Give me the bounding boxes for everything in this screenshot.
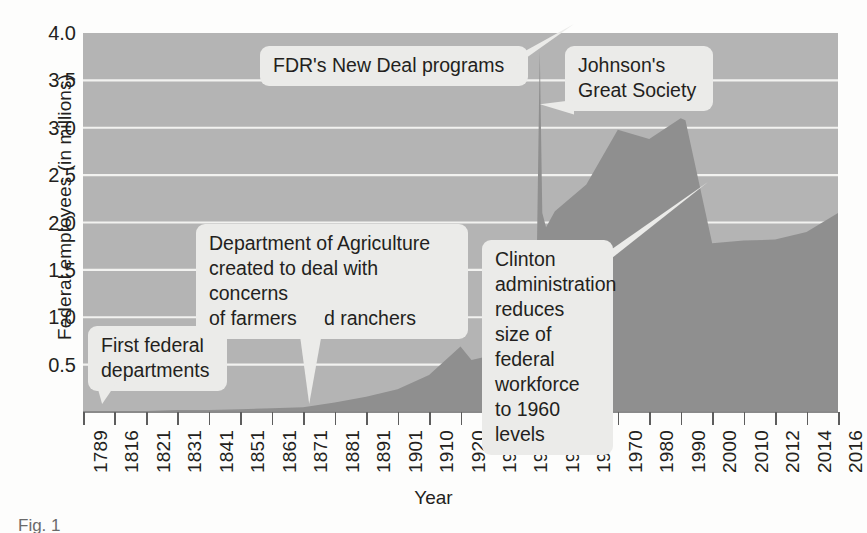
x-axis-tick-label: 1980 bbox=[656, 430, 678, 473]
x-axis-tick-label: 2014 bbox=[814, 430, 836, 473]
x-axis-tick-mark bbox=[83, 412, 85, 425]
x-axis-tick-label: 2010 bbox=[751, 430, 773, 473]
y-axis-tick-label: 4.0 bbox=[30, 22, 76, 45]
x-axis-tick-mark bbox=[114, 412, 116, 425]
y-axis-tick-label: 2.0 bbox=[30, 211, 76, 234]
callout-johnsons-great-society: Johnson's Great Society bbox=[565, 46, 713, 111]
x-axis-tick-mark bbox=[209, 412, 211, 425]
figure-caption: Fig. 1 bbox=[18, 516, 61, 533]
x-axis-tick-mark bbox=[649, 412, 651, 425]
x-axis-tick-mark bbox=[335, 412, 337, 425]
x-axis-tick-label: 1881 bbox=[342, 430, 364, 473]
x-axis-tick-mark bbox=[838, 412, 840, 425]
x-axis-tick-mark bbox=[366, 412, 368, 425]
y-axis-tick-label: 3.5 bbox=[30, 69, 76, 92]
x-axis-tick-label: 1871 bbox=[310, 430, 332, 473]
x-axis-tick-mark bbox=[712, 412, 714, 425]
x-axis-tick-mark bbox=[461, 412, 463, 425]
x-axis-tick-label: 1789 bbox=[90, 430, 112, 473]
x-axis-tick-mark bbox=[303, 412, 305, 425]
x-axis-tick-label: 1910 bbox=[436, 430, 458, 473]
x-axis-tick-label: 1901 bbox=[405, 430, 427, 473]
x-axis-tick-label: 1841 bbox=[216, 430, 238, 473]
x-axis-tick-label: 2000 bbox=[719, 430, 741, 473]
x-axis-title: Year bbox=[0, 487, 867, 509]
x-axis-tick-label: 1990 bbox=[688, 430, 710, 473]
x-axis-tick-label: 2016 bbox=[845, 430, 867, 473]
x-axis-tick-label: 1861 bbox=[279, 430, 301, 473]
y-axis-tick-label: 3.0 bbox=[30, 116, 76, 139]
x-axis-tick-label: 2012 bbox=[782, 430, 804, 473]
x-axis-tick-mark bbox=[807, 412, 809, 425]
x-axis-tick-mark bbox=[272, 412, 274, 425]
y-axis-tick-label: 2.5 bbox=[30, 164, 76, 187]
x-axis-tick-mark bbox=[618, 412, 620, 425]
x-axis-tick-mark bbox=[681, 412, 683, 425]
x-axis-tick-mark bbox=[744, 412, 746, 425]
x-axis-tick-mark bbox=[775, 412, 777, 425]
x-axis-tick-mark bbox=[146, 412, 148, 425]
y-axis-tick-label: 0.5 bbox=[30, 353, 76, 376]
x-axis-tick-label: 1891 bbox=[373, 430, 395, 473]
callout-fdrs-new-deal: FDR's New Deal programs bbox=[260, 46, 528, 86]
x-axis-tick-mark bbox=[429, 412, 431, 425]
y-axis-tick-labels: 0.51.01.52.02.53.03.54.0 bbox=[30, 0, 76, 533]
x-axis-tick-label: 1816 bbox=[121, 430, 143, 473]
x-axis-tick-label: 1831 bbox=[184, 430, 206, 473]
x-axis-tick-mark bbox=[177, 412, 179, 425]
y-axis-tick-label: 1.5 bbox=[30, 258, 76, 281]
x-axis-tick-label: 1970 bbox=[625, 430, 647, 473]
y-axis-tick-label: 1.0 bbox=[30, 306, 76, 329]
x-axis-tick-mark bbox=[240, 412, 242, 425]
x-axis-tick-label: 1821 bbox=[153, 430, 175, 473]
callout-clinton-administration: Clinton administration reduces size of f… bbox=[482, 240, 613, 455]
x-axis-ticks: 1789181618211831184118511861187118811891… bbox=[83, 412, 838, 426]
figure-container: Federal employees (in millions) 0.51.01.… bbox=[0, 0, 867, 533]
callout-department-of-agriculture: Department of Agriculture created to dea… bbox=[196, 224, 468, 339]
x-axis-tick-label: 1851 bbox=[247, 430, 269, 473]
x-axis-tick-mark bbox=[398, 412, 400, 425]
